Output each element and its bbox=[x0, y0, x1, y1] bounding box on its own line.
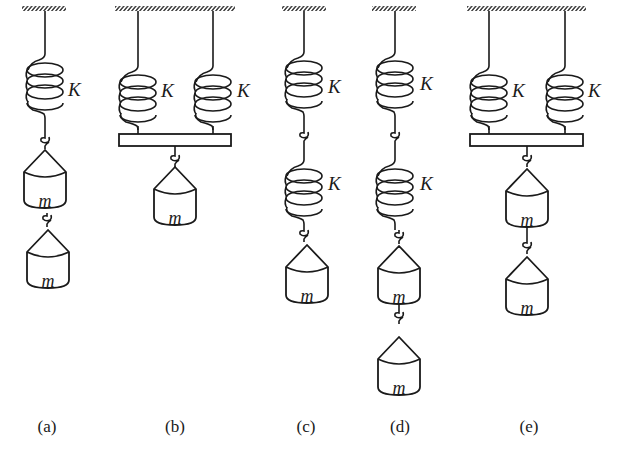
ceiling-hatch bbox=[282, 6, 326, 11]
spring-icon bbox=[194, 52, 231, 130]
caption-e: (e) bbox=[520, 417, 539, 436]
spring-label: K bbox=[419, 73, 434, 94]
spring-icon bbox=[119, 52, 156, 130]
spring-label: K bbox=[511, 80, 526, 101]
spring-icon bbox=[285, 38, 322, 116]
panel-d: K K m m (d) bbox=[372, 6, 434, 436]
spring-icon bbox=[376, 146, 413, 224]
spring-label: K bbox=[327, 173, 342, 194]
spring-label: K bbox=[327, 76, 342, 97]
caption-d: (d) bbox=[390, 417, 410, 436]
caption-c: (c) bbox=[297, 417, 316, 436]
panel-a: K m m (a) bbox=[22, 6, 82, 436]
hook-icon bbox=[391, 130, 400, 144]
hook-icon bbox=[395, 230, 404, 244]
spring-icon bbox=[470, 52, 507, 130]
ceiling-hatch bbox=[115, 6, 235, 11]
hook-icon bbox=[523, 153, 532, 167]
rigid-bar bbox=[470, 134, 583, 146]
spring-icon bbox=[546, 52, 583, 130]
panel-e: K K m m (e) bbox=[467, 6, 602, 436]
spring-label: K bbox=[160, 80, 175, 101]
mass-label: m bbox=[42, 271, 55, 291]
spring-mass-figure: K m m (a) K K m (b) K K bbox=[0, 0, 617, 457]
mass-label: m bbox=[393, 378, 406, 398]
panel-c: K K m (c) bbox=[282, 6, 342, 436]
ceiling-hatch bbox=[372, 6, 416, 11]
spring-icon bbox=[285, 146, 322, 224]
spring-label: K bbox=[67, 79, 82, 100]
hook-icon bbox=[395, 310, 404, 324]
spring-label: K bbox=[587, 80, 602, 101]
hook-icon bbox=[523, 240, 532, 254]
spring-icon bbox=[26, 40, 63, 118]
mass-label: m bbox=[521, 210, 534, 230]
panel-b: K K m (b) bbox=[115, 6, 251, 436]
hook-icon bbox=[41, 135, 50, 149]
spring-label: K bbox=[419, 173, 434, 194]
ceiling-hatch bbox=[467, 6, 586, 11]
mass-label: m bbox=[39, 191, 52, 211]
spring-icon bbox=[376, 38, 413, 116]
mass-label: m bbox=[393, 287, 406, 307]
spring-label: K bbox=[236, 80, 251, 101]
caption-b: (b) bbox=[165, 417, 185, 436]
mass-label: m bbox=[169, 208, 182, 228]
hook-icon bbox=[300, 228, 309, 242]
hook-icon bbox=[171, 153, 180, 167]
caption-a: (a) bbox=[38, 417, 57, 436]
mass-label: m bbox=[301, 286, 314, 306]
ceiling-hatch bbox=[22, 6, 66, 11]
hook-icon bbox=[43, 213, 52, 227]
hook-icon bbox=[300, 130, 309, 144]
rigid-bar bbox=[119, 134, 231, 146]
mass-label: m bbox=[521, 298, 534, 318]
